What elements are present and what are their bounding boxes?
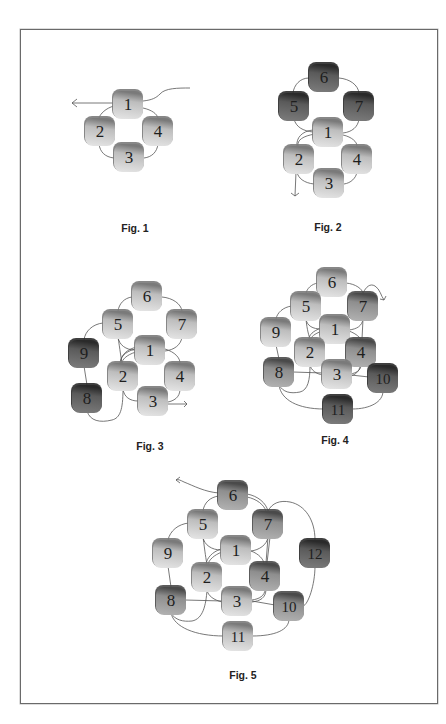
bead-number: 4	[261, 567, 270, 586]
bead-4: 4	[164, 361, 195, 391]
thread-line	[168, 566, 171, 587]
bead-number: 10	[376, 371, 391, 387]
bead-number: 8	[275, 363, 284, 382]
bead-number: 7	[178, 315, 187, 334]
bead-number: 2	[295, 150, 304, 169]
thread-line	[343, 119, 359, 133]
thread-line	[121, 349, 135, 363]
bead-2: 2	[107, 361, 138, 391]
figure-4: 6579124831011	[260, 267, 398, 424]
bead-number: 11	[331, 402, 345, 418]
bead-5: 5	[278, 91, 309, 121]
bead-8: 8	[263, 357, 294, 387]
bead-number: 5	[302, 297, 311, 316]
thread-line	[295, 172, 296, 196]
bead-7: 7	[343, 91, 374, 121]
thread-line	[118, 337, 122, 363]
thread-line	[99, 144, 114, 158]
beads: 6571243	[278, 62, 374, 198]
bead-4: 4	[142, 116, 173, 146]
thread-line	[303, 566, 315, 606]
bead-9: 9	[152, 538, 183, 568]
thread-line	[165, 337, 182, 351]
bead-number: 9	[164, 544, 173, 563]
bead-4: 4	[341, 144, 372, 174]
bead-3: 3	[137, 386, 168, 416]
bead-10: 10	[367, 363, 398, 393]
bead-3: 3	[113, 142, 144, 172]
bead-number: 1	[232, 541, 241, 560]
beads: 6579124831011	[260, 267, 398, 424]
figure-caption-2: Fig. 2	[314, 221, 341, 233]
bead-number: 7	[264, 515, 273, 534]
figure-5: 657911224831011	[152, 477, 330, 651]
bead-number: 7	[359, 297, 368, 316]
bead-number: 12	[308, 546, 323, 562]
thread-line	[252, 619, 289, 636]
bead-number: 2	[306, 343, 315, 362]
bead-number: 2	[203, 568, 212, 587]
bead-9: 9	[260, 317, 291, 347]
thread-line	[276, 345, 279, 359]
bead-7: 7	[166, 309, 197, 339]
bead-number: 4	[353, 150, 362, 169]
bead-number: 8	[83, 389, 92, 408]
bead-7: 7	[252, 509, 283, 539]
bead-2: 2	[294, 337, 325, 367]
figure-caption-1: Fig. 1	[121, 222, 148, 234]
bead-number: 3	[333, 365, 342, 384]
thread-line	[293, 78, 309, 93]
thread-line	[252, 601, 275, 605]
bead-number: 8	[167, 591, 176, 610]
thread-line	[352, 391, 383, 409]
bead-12: 12	[299, 538, 330, 568]
bead-1: 1	[134, 335, 165, 365]
bead-3: 3	[321, 359, 352, 389]
bead-number: 3	[125, 148, 134, 167]
beads: 1243	[84, 89, 173, 172]
thread-line	[279, 385, 324, 409]
thread-line	[293, 372, 323, 373]
thread-line	[165, 349, 180, 363]
bead-7: 7	[347, 291, 378, 321]
thread-line	[144, 144, 158, 158]
bead-number: 4	[357, 343, 366, 362]
bead-number: 7	[355, 97, 364, 116]
bead-11: 11	[322, 394, 353, 424]
bead-number: 6	[320, 68, 329, 87]
thread-line	[297, 130, 313, 146]
thread-line	[143, 88, 190, 101]
bead-number: 5	[290, 97, 299, 116]
bead-number: 4	[176, 367, 185, 386]
bead-8: 8	[71, 383, 102, 413]
bead-number: 3	[149, 392, 158, 411]
bead-number: 10	[282, 599, 297, 615]
bead-number: 9	[272, 323, 281, 342]
bead-number: 5	[114, 315, 123, 334]
bead-number: 6	[328, 273, 337, 292]
bead-1: 1	[220, 535, 251, 565]
bead-number: 11	[231, 629, 245, 645]
thread-line	[84, 323, 103, 340]
bead-1: 1	[312, 117, 343, 147]
thread-line	[203, 496, 219, 511]
bead-6: 6	[308, 62, 339, 92]
figure-3: 657912483	[68, 281, 197, 421]
bead-number: 6	[229, 486, 238, 505]
bead-number: 1	[146, 341, 155, 360]
bead-number: 2	[96, 122, 105, 141]
thread-line	[247, 497, 266, 511]
bead-number: 3	[325, 174, 334, 193]
bead-number: 2	[119, 367, 128, 386]
bead-number: 6	[143, 287, 152, 306]
bead-3: 3	[221, 586, 252, 616]
bead-9: 9	[68, 338, 99, 368]
bead-number: 1	[124, 95, 133, 114]
bead-4: 4	[249, 561, 280, 591]
thread-line	[162, 297, 182, 311]
figure-caption-3: Fig. 3	[136, 440, 163, 452]
bead-2: 2	[84, 116, 115, 146]
thread-line	[84, 366, 87, 385]
thread-line	[168, 523, 189, 540]
bead-number: 9	[80, 344, 89, 363]
